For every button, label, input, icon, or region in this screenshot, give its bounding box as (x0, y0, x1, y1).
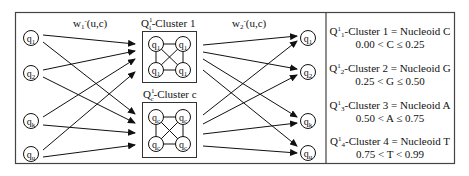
legend-title: Q12-Cluster 2 = Nucleoid G (326, 62, 454, 75)
input-node-q2: q2 (24, 66, 39, 81)
cluster-1-title: Q11-Cluster 1 (141, 16, 195, 32)
cluster-1-node: q1 (176, 37, 191, 52)
output-arrows (203, 36, 297, 153)
arrow-q1-cc (43, 42, 135, 114)
cluster-c-node: qc (149, 110, 164, 125)
input-arrows (43, 35, 135, 157)
arrow-qk-c1 (43, 59, 135, 117)
arrow-cc-q2 (203, 75, 297, 124)
arrow-qk-cc (43, 125, 135, 133)
arrow-cc-qu (203, 146, 297, 153)
arrow-cc-qk (203, 123, 297, 134)
legend-entry-cluster-2: Q12-Cluster 2 = Nucleoid G 0.25 < G ≤ 0.… (326, 62, 454, 88)
arrow-c1-q2 (203, 52, 297, 69)
legend-range: 0.25 < G ≤ 0.50 (326, 75, 454, 88)
legend-entry-cluster-4: Q14-Cluster 4 = Nucleoid T 0.75 < T < 0.… (326, 135, 454, 161)
legend-title: Q11-Cluster 1 = Nucleoid C (326, 25, 454, 38)
output-node-qu: qu (301, 146, 316, 161)
arrow-qu-cc (43, 145, 135, 157)
weight-label-w2: w2-(u,c) (232, 17, 267, 31)
input-node-q1: q1 (24, 31, 39, 46)
output-node-q1: q1 (301, 31, 316, 46)
legend-range: 0.50 < A ≤ 0.75 (326, 112, 454, 125)
cluster-c-node: qc (176, 110, 191, 125)
legend-entry-cluster-1: Q11-Cluster 1 = Nucleoid C 0.00 < C ≤ 0.… (326, 25, 454, 51)
output-node-qk: qk (301, 114, 316, 129)
cluster-1-node: q1 (149, 63, 164, 78)
legend-panel: Q11-Cluster 1 = Nucleoid C 0.00 < C ≤ 0.… (326, 13, 454, 163)
arrow-q1-c1 (43, 35, 135, 44)
arrow-cc-q1 (203, 41, 297, 115)
cluster-1-node: q1 (149, 37, 164, 52)
weight-label-w1: w1-(u,c) (73, 17, 108, 31)
legend-entry-cluster-3: Q13-Cluster 3 = Nucleoid A 0.50 < A ≤ 0.… (326, 99, 454, 125)
input-node-qu: qu (24, 147, 39, 162)
legend-range: 0.75 < T < 0.99 (326, 148, 454, 161)
input-node-qk: qk (24, 114, 39, 129)
legend-title: Q13-Cluster 3 = Nucleoid A (326, 99, 454, 112)
arrow-c1-q1 (203, 36, 297, 45)
legend-range: 0.00 < C ≤ 0.25 (326, 38, 454, 51)
cluster-c-box: qc qc qc qc (143, 103, 197, 158)
cluster-1-box: q1 q1 q1 q1 (143, 32, 197, 83)
output-node-q2: q2 (301, 65, 316, 80)
cluster-c-node: qc (176, 137, 191, 152)
cluster-c-title: Q1c-Cluster c (143, 87, 197, 103)
cluster-c-node: qc (149, 137, 164, 152)
legend-title: Q14-Cluster 4 = Nucleoid T (326, 135, 454, 148)
cluster-1-node: q1 (176, 63, 191, 78)
